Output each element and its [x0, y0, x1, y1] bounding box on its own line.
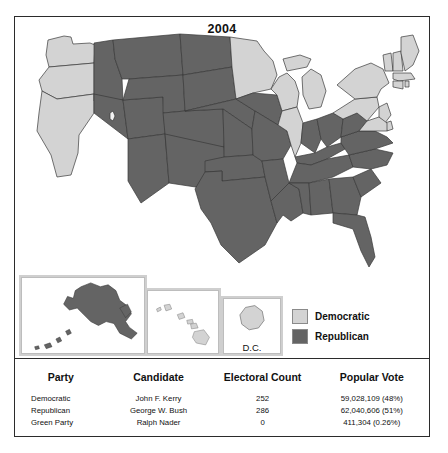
republican-swatch-icon [292, 329, 308, 344]
legend-item-democratic[interactable]: Democratic [292, 309, 417, 324]
map-legend: Democratic Republican [292, 309, 417, 349]
hawaii-inset [145, 288, 221, 356]
cell-electoral: 0 [211, 416, 315, 428]
cell-electoral: 252 [211, 392, 315, 404]
cell-candidate: George W. Bush [107, 404, 211, 416]
state-OH[interactable] [317, 113, 343, 147]
state-UT[interactable] [123, 97, 165, 139]
state-AZ[interactable] [128, 134, 169, 203]
state-MA[interactable] [393, 73, 415, 81]
cell-candidate: Ralph Nader [107, 416, 211, 428]
dc-inset: D.C. [221, 296, 283, 356]
state-MN[interactable] [230, 37, 277, 99]
cell-candidate: John F. Kerry [107, 392, 211, 404]
state-WA[interactable] [46, 36, 95, 67]
state-ME[interactable] [401, 35, 419, 71]
table-row: Republican George W. Bush 286 62,040,606… [15, 404, 429, 416]
alaska-inset [19, 275, 147, 356]
table-header-row: Party Candidate Electoral Count Popular … [15, 359, 429, 392]
table-row: Democratic John F. Kerry 252 59,028,109 … [15, 392, 429, 404]
election-map-figure: 2004 [0, 0, 448, 453]
legend-item-republican[interactable]: Republican [292, 329, 417, 344]
state-MT[interactable] [113, 34, 183, 79]
results-table: Party Candidate Electoral Count Popular … [15, 359, 429, 428]
state-HI[interactable] [157, 304, 210, 345]
hawaii-shape-svg [149, 292, 217, 352]
results-table-pane: Party Candidate Electoral Count Popular … [15, 359, 429, 436]
dc-label: D.C. [223, 342, 281, 353]
alaska-aleutians [35, 329, 72, 349]
legend-label-democratic: Democratic [315, 311, 369, 322]
state-TX[interactable] [195, 171, 277, 263]
cell-party: Green Party [15, 416, 107, 428]
cell-party: Republican [15, 404, 107, 416]
state-DC[interactable] [240, 306, 264, 330]
table-row: Green Party Ralph Nader 0 411,304 (0.26%… [15, 416, 429, 428]
state-CA[interactable] [37, 91, 94, 177]
cell-popular: 62,040,606 (51%) [315, 404, 429, 416]
cell-popular: 411,304 (0.26%) [315, 416, 429, 428]
state-NY[interactable] [337, 63, 389, 99]
legend-label-republican: Republican [315, 331, 369, 342]
us-map-svg [15, 31, 428, 291]
map-pane: 2004 [15, 17, 429, 359]
figure-frame: 2004 [14, 16, 430, 437]
state-CT[interactable] [393, 81, 403, 89]
cell-popular: 59,028,109 (48%) [315, 392, 429, 404]
cell-party: Democratic [15, 392, 107, 404]
state-VT[interactable] [383, 53, 393, 71]
column-header-popular-vote: Popular Vote [315, 359, 429, 392]
column-header-candidate: Candidate [107, 359, 211, 392]
alaska-shape-svg [23, 279, 143, 354]
state-RI[interactable] [405, 81, 409, 87]
cell-electoral: 286 [211, 404, 315, 416]
column-header-party: Party [15, 359, 107, 392]
democratic-swatch-icon [292, 309, 308, 324]
state-FL[interactable] [333, 213, 375, 267]
column-header-electoral-count: Electoral Count [211, 359, 315, 392]
